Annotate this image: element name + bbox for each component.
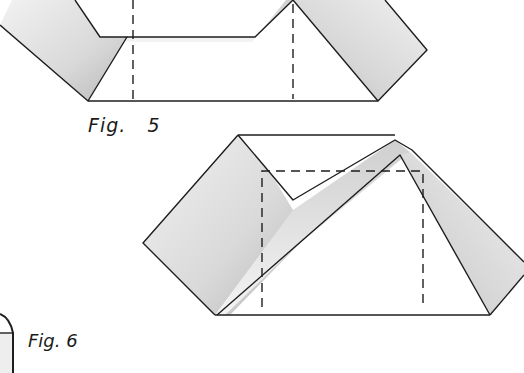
lower-left-panel (143, 135, 300, 315)
figure-6-caption: Fig. 6 (28, 330, 78, 351)
fig5-left-flap (0, 0, 127, 101)
figure-5-caption: Fig. 5 (88, 114, 161, 136)
folding-diagram (0, 0, 524, 373)
fig5-right-flap (293, 0, 427, 101)
lower-right-flap (400, 152, 524, 315)
figure-6-drawing (0, 314, 13, 373)
fig5-outline-center (127, 0, 293, 37)
fig5-center-strip (127, 0, 293, 42)
figure-5-drawing (0, 0, 427, 101)
figure-lower-drawing (143, 135, 524, 315)
